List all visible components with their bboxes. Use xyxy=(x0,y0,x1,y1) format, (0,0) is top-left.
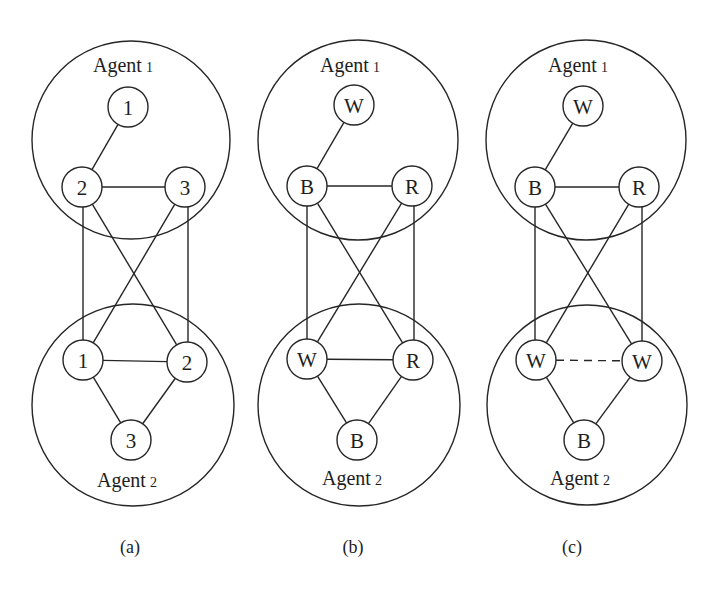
node-label: 1 xyxy=(123,96,134,120)
agent-index: 2 xyxy=(603,473,610,488)
node-label: 1 xyxy=(78,349,89,373)
nodes-layer xyxy=(62,85,662,460)
node-label: R xyxy=(406,349,420,373)
agent-index: 1 xyxy=(146,60,153,75)
edge-c2-1-c2-2 xyxy=(556,360,622,361)
edges-layer xyxy=(83,122,642,424)
edge-a2-1-a2-2 xyxy=(103,360,167,361)
agent-label: Agent1 xyxy=(93,54,153,77)
node-label: 2 xyxy=(77,176,88,200)
edge-a2-1-a2-3 xyxy=(93,377,120,423)
agent-index: 2 xyxy=(375,473,382,488)
labels-layer: Agent1Agent2123123(a)Agent1Agent2WBRWRB(… xyxy=(77,54,652,558)
node-label: R xyxy=(405,175,419,199)
edge-b2-1-b2-2 xyxy=(327,359,393,360)
node-label: B xyxy=(528,176,542,200)
edge-c2-2-c2-3 xyxy=(596,377,630,424)
node-label: B xyxy=(577,429,591,453)
agent-label: Agent2 xyxy=(550,467,610,490)
node-label: 2 xyxy=(182,351,193,375)
graph-coloring-diagram: Agent1Agent2123123(a)Agent1Agent2WBRWRB(… xyxy=(0,0,716,593)
edge-a1-1-a1-2 xyxy=(92,124,118,169)
node-label: W xyxy=(297,348,317,372)
node-label: W xyxy=(632,350,652,374)
agent-index: 2 xyxy=(150,475,157,490)
agent-label: Agent2 xyxy=(97,469,157,492)
panel-caption-c: (c) xyxy=(562,537,582,558)
node-label: B xyxy=(350,429,364,453)
panel-caption-a: (a) xyxy=(120,537,140,558)
agent-index: 1 xyxy=(373,60,380,75)
edge-c1-1-c1-2 xyxy=(545,123,573,170)
edge-c2-1-c2-3 xyxy=(546,377,573,423)
edge-b2-1-b2-3 xyxy=(318,376,347,423)
edge-a2-2-a2-3 xyxy=(143,378,176,424)
node-label: B xyxy=(300,175,314,199)
node-label: 3 xyxy=(126,429,137,453)
agent-label: Agent1 xyxy=(548,54,608,77)
agent-index: 1 xyxy=(601,60,608,75)
panel-caption-b: (b) xyxy=(343,537,364,558)
node-label: W xyxy=(344,94,364,118)
agent-label: Agent1 xyxy=(320,54,380,77)
node-label: W xyxy=(526,349,546,373)
node-label: 3 xyxy=(180,176,191,200)
agent-label: Agent2 xyxy=(322,467,382,490)
node-label: W xyxy=(573,95,593,119)
node-label: R xyxy=(632,176,646,200)
edge-b2-2-b2-3 xyxy=(368,376,401,423)
edge-b1-1-b1-2 xyxy=(317,122,344,168)
